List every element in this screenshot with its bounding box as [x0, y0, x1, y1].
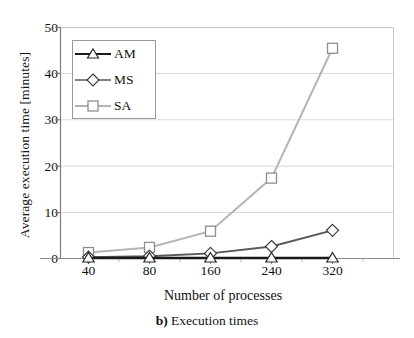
legend-label-am: AM — [113, 47, 136, 61]
diamond-icon — [87, 74, 99, 86]
x-tick-label-40: 40 — [59, 264, 119, 278]
figure-caption: b) Execution times — [0, 313, 414, 329]
legend-label-ms: MS — [113, 73, 134, 87]
figure-execution-times: Average execution time [minutes] 50 40 3… — [0, 0, 414, 338]
y-axis-line — [55, 28, 61, 259]
series-SA-marker — [328, 43, 338, 53]
square-icon — [88, 101, 98, 111]
x-tick-label-320: 320 — [303, 264, 363, 278]
x-tick-label-80: 80 — [120, 264, 180, 278]
legend-marker-ms — [73, 70, 113, 90]
x-axis-title: Number of processes — [0, 288, 414, 304]
figure-caption-text: Execution times — [171, 313, 258, 328]
x-tick-label-160: 160 — [181, 264, 241, 278]
chart-legend[interactable]: AM MS SA — [72, 40, 156, 119]
legend-label-sa: SA — [113, 99, 131, 113]
x-tick-label-240: 240 — [242, 264, 302, 278]
figure-caption-tag: b) — [156, 313, 168, 328]
series-SA-marker — [267, 173, 277, 183]
legend-marker-sa — [73, 96, 113, 116]
series-SA-marker — [206, 226, 216, 236]
legend-item-ms[interactable]: MS — [73, 67, 157, 93]
x-axis-tick-labels: 40 80 160 240 320 — [0, 264, 414, 284]
legend-item-am[interactable]: AM — [73, 41, 157, 67]
legend-item-sa[interactable]: SA — [73, 93, 157, 119]
legend-marker-am — [73, 44, 113, 64]
